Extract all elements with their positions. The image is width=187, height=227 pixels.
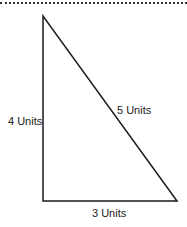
vertical-side-label: 4 Units — [8, 115, 42, 127]
horizontal-side-label: 3 Units — [92, 207, 126, 219]
hypotenuse-label: 5 Units — [117, 104, 151, 116]
right-triangle — [0, 0, 187, 227]
triangle-shape — [43, 16, 177, 201]
